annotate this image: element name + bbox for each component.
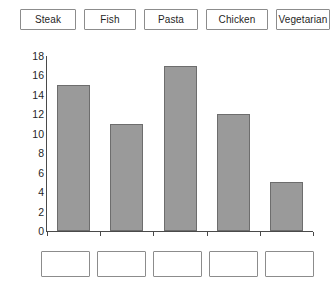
- label-tile-fish[interactable]: Fish: [84, 9, 136, 30]
- label-bank: SteakFishPastaChickenVegetarian: [0, 0, 336, 38]
- label-tile-vegetarian[interactable]: Vegetarian: [276, 9, 330, 30]
- drop-box-3[interactable]: [153, 251, 202, 277]
- x-axis-tick: [207, 232, 208, 236]
- label-tile-steak[interactable]: Steak: [20, 9, 76, 30]
- y-axis-tick-label: 18: [4, 51, 44, 62]
- x-axis-tick: [153, 232, 154, 236]
- drop-box-5[interactable]: [265, 251, 314, 277]
- bar-chart-labeling-exercise: SteakFishPastaChickenVegetarian 18161412…: [0, 0, 336, 285]
- y-axis-tick-label: 2: [4, 206, 44, 217]
- label-tile-chicken[interactable]: Chicken: [206, 9, 268, 30]
- y-axis-tick-label: 4: [4, 187, 44, 198]
- y-axis-tick-label: 0: [4, 226, 44, 237]
- bar-1: [57, 85, 90, 231]
- x-axis-line: [46, 231, 313, 232]
- x-axis-tick: [47, 232, 48, 236]
- bar-chart: 181614121086420: [0, 38, 336, 243]
- x-axis-tick: [260, 232, 261, 236]
- drop-box-2[interactable]: [97, 251, 146, 277]
- y-axis-tick-label: 10: [4, 129, 44, 140]
- bar-2: [110, 124, 143, 231]
- x-axis-tick: [313, 232, 314, 236]
- y-axis-tick-label: 14: [4, 90, 44, 101]
- bar-4: [217, 114, 250, 231]
- y-axis-tick-label: 6: [4, 167, 44, 178]
- y-axis-tick-label: 12: [4, 109, 44, 120]
- x-axis-tick: [100, 232, 101, 236]
- drop-zone: [0, 243, 336, 285]
- label-tile-pasta[interactable]: Pasta: [144, 9, 198, 30]
- bar-3: [164, 66, 197, 231]
- drop-box-1[interactable]: [41, 251, 90, 277]
- drop-box-4[interactable]: [209, 251, 258, 277]
- y-axis-tick-label: 16: [4, 70, 44, 81]
- y-axis-tick-label: 8: [4, 148, 44, 159]
- bar-5: [270, 182, 303, 231]
- y-axis-line: [46, 56, 47, 232]
